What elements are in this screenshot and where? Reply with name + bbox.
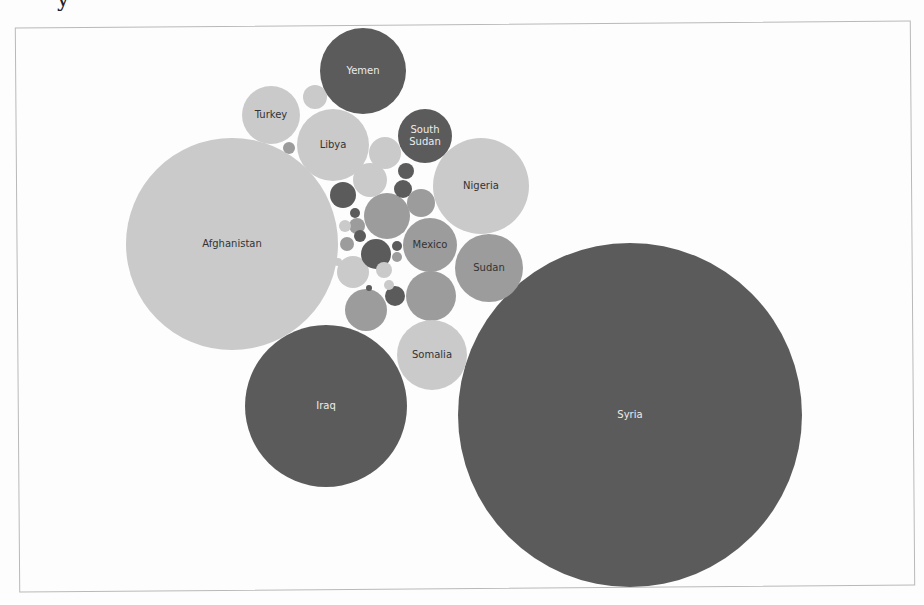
bubble-label: Sudan <box>473 262 505 273</box>
bubble-turkey[interactable]: Turkey <box>242 86 300 144</box>
bubble[interactable] <box>354 230 366 242</box>
bubble[interactable] <box>345 289 387 331</box>
bubble-sudan[interactable]: Sudan <box>455 234 523 302</box>
bubble-libya[interactable]: Libya <box>297 109 369 181</box>
bubble[interactable] <box>392 241 402 251</box>
bubble-afghanistan[interactable]: Afghanistan <box>126 138 338 350</box>
bubble-label: Yemen <box>345 65 379 76</box>
bubble[interactable] <box>303 85 327 109</box>
bubble[interactable] <box>350 208 360 218</box>
bubble[interactable] <box>330 182 356 208</box>
bubble[interactable] <box>397 225 405 233</box>
bubble-label: South <box>410 124 439 135</box>
labeled-bubbles: SyriaAfghanistanIraqNigeriaYemenLibyaSom… <box>126 28 802 587</box>
bubble-label: Libya <box>320 139 347 150</box>
bubble-label: Mexico <box>413 239 448 250</box>
bubble-label: Somalia <box>412 349 452 360</box>
bubble-iraq[interactable]: Iraq <box>245 325 407 487</box>
bubble[interactable] <box>394 180 412 198</box>
bubble-chart: SyriaAfghanistanIraqNigeriaYemenLibyaSom… <box>0 0 924 605</box>
bubble[interactable] <box>376 262 392 278</box>
bubble[interactable] <box>384 280 394 290</box>
bubble-label: Iraq <box>316 400 336 411</box>
bubble-label: Nigeria <box>463 180 499 191</box>
bubble[interactable] <box>340 237 354 251</box>
bubble-yemen[interactable]: Yemen <box>320 28 406 114</box>
bubble-label: Afghanistan <box>202 238 262 249</box>
bubble[interactable] <box>398 163 414 179</box>
bubble-label: Syria <box>617 409 642 420</box>
bubble-label: Sudan <box>409 136 441 147</box>
bubble[interactable] <box>392 252 402 262</box>
bubble[interactable] <box>339 220 351 232</box>
bubble[interactable] <box>366 285 372 291</box>
bubble-mexico[interactable]: Mexico <box>403 218 457 272</box>
bubble[interactable] <box>406 271 456 321</box>
bubble[interactable] <box>407 189 435 217</box>
bubble-label: Turkey <box>254 109 288 120</box>
bubble-somalia[interactable]: Somalia <box>397 320 467 390</box>
bubble-south-sudan[interactable]: SouthSudan <box>398 109 452 163</box>
bubble-nigeria[interactable]: Nigeria <box>433 138 529 234</box>
bubble[interactable] <box>369 137 401 169</box>
